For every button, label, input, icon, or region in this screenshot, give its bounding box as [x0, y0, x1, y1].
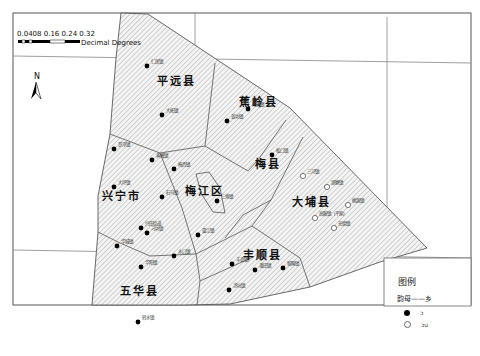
north-arrow: N	[31, 72, 41, 99]
town-label: 大坪镇	[118, 179, 131, 186]
town-label: 留隍镇	[287, 260, 300, 267]
town-label: 黄槐镇	[156, 152, 169, 159]
town-label: 丰良镇	[236, 256, 249, 263]
hollow-circle-icon	[324, 184, 329, 189]
legend-subtitle: 韵母——乡	[397, 294, 432, 303]
filled-circle-icon	[172, 254, 177, 259]
hollow-circle-icon	[312, 215, 317, 220]
filled-circle-icon	[230, 262, 235, 267]
town-label: 刁坊镇	[151, 225, 164, 232]
town-label: 仁居镇	[151, 58, 164, 65]
filled-circle-icon	[139, 226, 144, 231]
town-label: 潘田镇	[259, 262, 272, 269]
hollow-circle-icon	[300, 173, 305, 178]
filled-circle-icon	[160, 195, 165, 200]
legend-title: 图例	[398, 276, 416, 287]
map-canvas: 0.0408 0.16 0.24 0.32 Decimal Degrees N …	[0, 0, 480, 356]
county-label: 梅江区	[185, 184, 224, 198]
town-label: 石马镇	[166, 189, 179, 196]
filled-circle-icon	[136, 320, 141, 325]
county-label: 丰顺县	[243, 248, 282, 262]
town-label: 华阳镇	[145, 259, 158, 266]
town-label: 梅西镇	[178, 161, 191, 168]
filled-circle-icon	[215, 199, 220, 204]
town-label: 湖寮镇	[331, 179, 344, 186]
filled-circle-icon	[196, 233, 201, 238]
town-label: 转水镇	[142, 314, 155, 321]
town-label: 蓝坊镇	[231, 113, 244, 120]
town-label: 桃源镇	[352, 197, 365, 204]
town-marker: 转水镇	[136, 314, 155, 324]
town-label: 水口镇	[178, 248, 191, 255]
filled-circle-icon	[227, 288, 232, 293]
filled-circle-icon	[145, 231, 150, 236]
filled-circle-icon	[139, 265, 144, 270]
town-label: 三角镇	[221, 193, 234, 200]
town-label: 畲江镇	[202, 227, 215, 234]
town-label: 三河镇	[307, 168, 320, 175]
filled-circle-icon	[225, 119, 230, 124]
filled-circle-icon	[246, 107, 251, 112]
filled-circle-icon	[281, 266, 286, 271]
town-label: 汤坑镇	[233, 282, 246, 289]
filled-circle-icon	[172, 167, 177, 172]
town-label: 罗浮镇	[118, 141, 131, 148]
filled-circle-icon	[145, 64, 150, 69]
filled-circle-icon	[160, 113, 165, 118]
county-label: 梅县	[255, 157, 281, 171]
county-label: 大埔县	[292, 195, 331, 209]
county-label: 兴宁市	[102, 189, 141, 203]
town-label: 大柘镇	[166, 107, 179, 114]
hollow-circle-icon	[345, 202, 350, 207]
town-label: 华城镇	[121, 238, 134, 245]
town-label: 南礤镇	[252, 101, 265, 108]
county-label: 平远县	[157, 75, 196, 88]
north-label: N	[34, 72, 40, 81]
legend: 图例 韵母——乡	[384, 258, 471, 306]
scale-bar-units: Decimal Degrees	[81, 39, 141, 47]
filled-circle-icon	[270, 153, 275, 158]
filled-circle-icon	[150, 158, 155, 163]
scale-bar-ticks: 0.0408 0.16 0.24 0.32	[17, 30, 95, 38]
town-label: 高陂镇（平原）	[319, 210, 347, 217]
filled-circle-icon	[112, 147, 117, 152]
filled-circle-icon	[253, 268, 258, 273]
town-label: 松口镇	[276, 147, 289, 154]
filled-circle-icon	[112, 185, 117, 190]
county-label: 五华县	[120, 284, 159, 298]
hollow-circle-icon	[331, 225, 336, 230]
filled-circle-icon	[115, 244, 120, 249]
town-label: 光德镇	[338, 220, 351, 227]
